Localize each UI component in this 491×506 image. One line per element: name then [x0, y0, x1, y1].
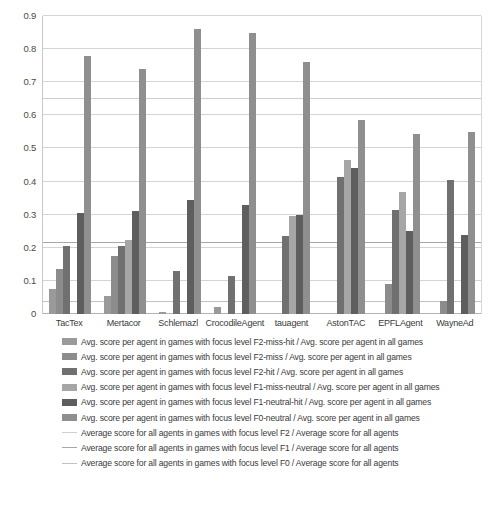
bar-f2-miss-hit[interactable]: [214, 307, 221, 314]
bars: [207, 16, 262, 314]
y-tick-label: 0.2: [23, 243, 36, 253]
bar-group: [43, 16, 98, 314]
bar-group: [426, 16, 481, 314]
y-tick-label: 0.8: [23, 44, 36, 54]
bar-f0-neutral[interactable]: [84, 56, 91, 314]
legend-label: Avg. score per agent in games with focus…: [81, 337, 423, 347]
x-tick-label: WayneAd: [428, 316, 482, 334]
legend-item[interactable]: Avg. score per agent in games with focus…: [62, 410, 491, 425]
bars: [153, 16, 208, 314]
bar-group: [207, 16, 262, 314]
x-tick-label: tauagent: [264, 316, 318, 334]
bar-f1-miss-neutral[interactable]: [289, 216, 296, 314]
y-tick-label: 0.1: [23, 276, 36, 286]
legend-label: Average score for all agents in games wi…: [81, 458, 399, 468]
legend-line-stroke: [62, 463, 77, 464]
y-tick-label: 0: [31, 309, 36, 319]
bars: [262, 16, 317, 314]
y-tick-label: 0.4: [23, 177, 36, 187]
bar-f1-neutral-hit[interactable]: [187, 200, 194, 314]
bar-f1-neutral-hit[interactable]: [132, 211, 139, 314]
bar-f1-neutral-hit[interactable]: [461, 235, 468, 314]
legend-line-stroke: [62, 432, 77, 433]
y-tick-label: 0.6: [23, 110, 36, 120]
bar-groups: [43, 16, 481, 314]
legend-label: Avg. score per agent in games with focus…: [81, 413, 420, 423]
legend-item[interactable]: Avg. score per agent in games with focus…: [62, 395, 491, 410]
legend-item[interactable]: Avg. score per agent in games with focus…: [62, 334, 491, 349]
bar-f2-hit[interactable]: [63, 246, 70, 314]
bar-f2-hit[interactable]: [282, 236, 289, 314]
bar-group: [372, 16, 427, 314]
bar-f0-neutral[interactable]: [249, 33, 256, 314]
legend-swatch-icon: [62, 384, 77, 391]
bar-f1-miss-neutral[interactable]: [125, 240, 132, 315]
bars: [372, 16, 427, 314]
bar-f1-neutral-hit[interactable]: [351, 168, 358, 314]
legend-item[interactable]: Average score for all agents in games wi…: [62, 456, 491, 471]
bar-f2-miss[interactable]: [385, 284, 392, 314]
bar-f1-neutral-hit[interactable]: [296, 215, 303, 314]
y-tick-label: 0.9: [23, 11, 36, 21]
legend-label: Average score for all agents in games wi…: [81, 428, 399, 438]
chart-container: 0.90.80.70.60.50.40.30.20.10 TacTexMerta…: [0, 0, 491, 506]
bar-f2-hit[interactable]: [392, 210, 399, 314]
bar-f2-miss[interactable]: [56, 269, 63, 314]
bar-f2-hit[interactable]: [447, 180, 454, 314]
bar-group: [98, 16, 153, 314]
chart-legend: Avg. score per agent in games with focus…: [0, 334, 491, 471]
bar-f2-hit[interactable]: [337, 177, 344, 314]
y-tick-label: 0.3: [23, 210, 36, 220]
legend-line-stroke: [62, 447, 77, 448]
legend-label: Avg. score per agent in games with focus…: [81, 382, 440, 392]
bar-f1-miss-neutral[interactable]: [399, 192, 406, 315]
bar-f2-miss[interactable]: [111, 256, 118, 314]
legend-line-icon: [62, 460, 77, 467]
bar-f1-neutral-hit[interactable]: [406, 231, 413, 314]
legend-swatch-icon: [62, 338, 77, 345]
bar-f0-neutral[interactable]: [194, 29, 201, 314]
x-axis: TacTexMertacorSchlemazlCrocodileAgenttau…: [42, 316, 482, 334]
bars: [317, 16, 372, 314]
legend-label: Avg. score per agent in games with focus…: [81, 352, 412, 362]
y-tick-label: 0.5: [23, 143, 36, 153]
bar-f2-hit[interactable]: [228, 276, 235, 314]
bar-f2-miss[interactable]: [440, 301, 447, 314]
bar-f0-neutral[interactable]: [413, 134, 420, 314]
bar-f0-neutral[interactable]: [358, 120, 365, 314]
legend-item[interactable]: Average score for all agents in games wi…: [62, 425, 491, 440]
bars: [98, 16, 153, 314]
bar-f2-miss-hit[interactable]: [104, 296, 111, 314]
legend-item[interactable]: Average score for all agents in games wi…: [62, 440, 491, 455]
bar-f1-neutral-hit[interactable]: [242, 205, 249, 314]
bar-f0-neutral[interactable]: [468, 132, 475, 314]
y-tick-label: 0.7: [23, 77, 36, 87]
legend-item[interactable]: Avg. score per agent in games with focus…: [62, 349, 491, 364]
bar-f0-neutral[interactable]: [303, 62, 310, 314]
legend-item[interactable]: Avg. score per agent in games with focus…: [62, 364, 491, 379]
bar-group: [317, 16, 372, 314]
legend-label: Avg. score per agent in games with focus…: [81, 397, 431, 407]
bar-f2-hit[interactable]: [173, 271, 180, 314]
x-tick-label: EPFLAgent: [373, 316, 427, 334]
plot-area: [42, 16, 482, 314]
legend-item[interactable]: Avg. score per agent in games with focus…: [62, 380, 491, 395]
y-axis: 0.90.80.70.60.50.40.30.20.10: [0, 8, 40, 324]
legend-line-icon: [62, 444, 77, 451]
x-tick-label: Schlemazl: [151, 316, 205, 334]
bars: [43, 16, 98, 314]
bar-group: [153, 16, 208, 314]
bar-f2-miss-hit[interactable]: [49, 289, 56, 314]
bar-f2-miss-hit[interactable]: [159, 312, 166, 314]
legend-swatch-icon: [62, 353, 77, 360]
legend-line-icon: [62, 429, 77, 436]
bar-f1-neutral-hit[interactable]: [77, 213, 84, 314]
x-tick-label: AstonTAC: [319, 316, 373, 334]
bar-f1-miss-neutral[interactable]: [344, 160, 351, 314]
bar-f0-neutral[interactable]: [139, 69, 146, 314]
x-tick-label: Mertacor: [96, 316, 150, 334]
legend-label: Average score for all agents in games wi…: [81, 443, 399, 453]
bar-f2-hit[interactable]: [118, 246, 125, 314]
bars: [426, 16, 481, 314]
legend-swatch-icon: [62, 414, 77, 421]
